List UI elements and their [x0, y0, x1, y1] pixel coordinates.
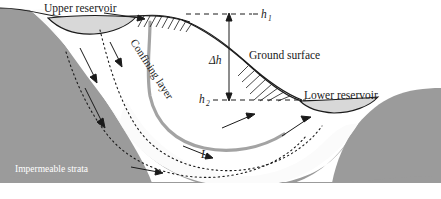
- ground-surface-label: Ground surface: [249, 49, 320, 61]
- delta-h-label: Δh: [208, 54, 222, 66]
- lower-reservoir-label: Lower reservoir: [304, 89, 378, 101]
- h2-subscript: 2: [206, 99, 210, 108]
- impermeable-strata-label: Impermeable strata: [15, 164, 89, 174]
- figure-container: Upper reservoir Lower reservoir Ground s…: [0, 0, 441, 199]
- length-L-label: L: [200, 148, 207, 160]
- h1-label: h: [261, 8, 267, 20]
- hydrogeology-cross-section-diagram: Upper reservoir Lower reservoir Ground s…: [0, 0, 441, 199]
- upper-reservoir-label: Upper reservoir: [44, 2, 117, 15]
- h1-subscript: 1: [268, 14, 272, 23]
- footer-band: [0, 183, 441, 199]
- h2-label: h: [199, 93, 205, 105]
